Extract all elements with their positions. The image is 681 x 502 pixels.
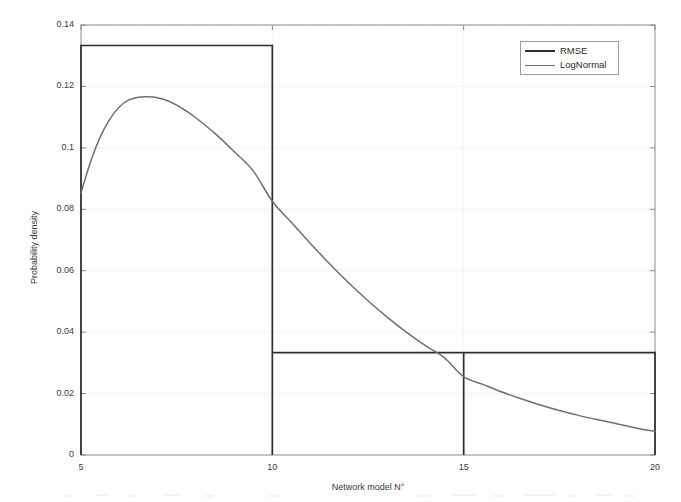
x-axis-title: Network model N° <box>318 483 418 492</box>
y-tick-label: 0.04 <box>56 327 74 336</box>
legend-label-rmse: RMSE <box>560 46 587 56</box>
legend-swatch-rmse-icon <box>525 50 555 52</box>
y-tick-label: 0.14 <box>56 20 74 29</box>
x-tick-label: 20 <box>635 463 675 472</box>
legend-entry-lognormal: LogNormal <box>525 58 606 72</box>
legend-entry-rmse: RMSE <box>525 44 587 58</box>
x-tick-label: 10 <box>252 463 292 472</box>
y-tick-label: 0.02 <box>56 389 74 398</box>
figure-canvas: 00.020.040.060.080.10.120.14 5101520 Net… <box>0 0 681 502</box>
rmse-histogram-outline <box>81 45 655 455</box>
y-tick-label: 0 <box>69 450 74 459</box>
scan-artifact <box>0 492 681 502</box>
lognormal-curve <box>81 97 655 432</box>
axis-ticks <box>81 25 655 455</box>
gridlines <box>81 25 655 455</box>
legend-swatch-lognormal-icon <box>525 65 555 66</box>
legend: RMSE LogNormal <box>520 41 619 75</box>
x-tick-label: 5 <box>61 463 101 472</box>
y-axis-title: Probability density <box>30 211 39 284</box>
legend-label-lognormal: LogNormal <box>560 60 606 70</box>
plot-area <box>0 0 681 502</box>
x-tick-label: 15 <box>444 463 484 472</box>
y-tick-label: 0.12 <box>56 81 74 90</box>
y-tick-label: 0.1 <box>61 143 74 152</box>
axis-frame <box>81 25 655 455</box>
y-tick-label: 0.06 <box>56 266 74 275</box>
y-tick-label: 0.08 <box>56 204 74 213</box>
